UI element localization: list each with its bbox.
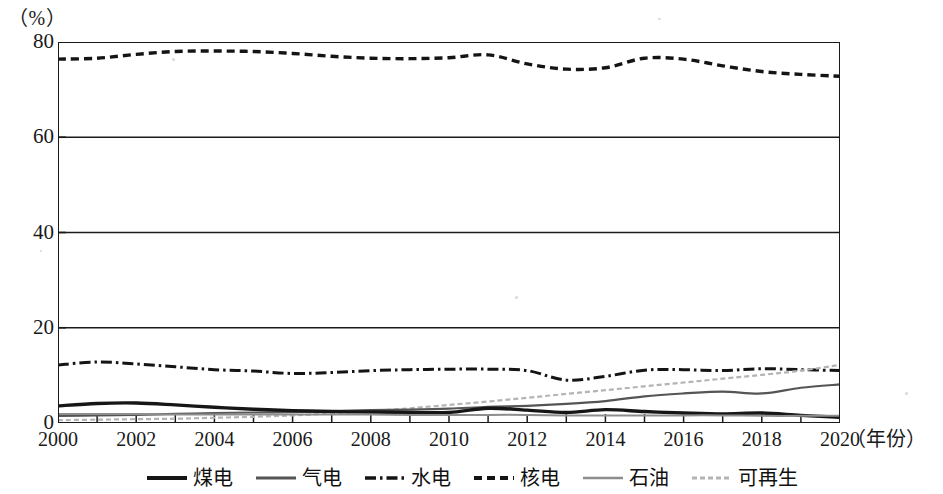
x-axis-tick-2018: 2018	[742, 427, 782, 451]
plot-area	[58, 42, 840, 423]
y-axis-tick-40: 40	[2, 222, 54, 243]
legend-label: 核电	[520, 467, 560, 489]
x-axis-tick-labels: 2000200220042006200820102012201420162018…	[58, 427, 840, 455]
x-axis-tick-2000: 2000	[38, 427, 78, 451]
legend-swatch-石油-icon	[582, 471, 624, 485]
y-axis-tick-20: 20	[2, 317, 54, 338]
legend-swatch-可再生-icon	[691, 471, 733, 485]
legend-item-煤电[interactable]: 煤电	[146, 467, 233, 489]
y-axis-tick-labels: 020406080	[0, 42, 54, 423]
x-axis-tick-2012: 2012	[507, 427, 547, 451]
legend-swatch-水电-icon	[364, 471, 406, 485]
series-line-核电	[58, 51, 840, 76]
x-axis-tick-2014: 2014	[585, 427, 625, 451]
chart-figure: （%） 020406080 20002002200420062008201020…	[0, 0, 943, 494]
x-axis-tick-2010: 2010	[429, 427, 469, 451]
x-axis-tick-2004: 2004	[194, 427, 234, 451]
legend-item-核电[interactable]: 核电	[473, 467, 560, 489]
legend-swatch-核电-icon	[473, 471, 515, 485]
y-axis-tick-60: 60	[2, 126, 54, 147]
legend-label: 石油	[629, 467, 669, 489]
legend-item-石油[interactable]: 石油	[582, 467, 669, 489]
legend-swatch-气电-icon	[255, 471, 297, 485]
y-axis-tick-80: 80	[2, 31, 54, 52]
legend-item-水电[interactable]: 水电	[364, 467, 451, 489]
x-axis-tick-2008: 2008	[351, 427, 391, 451]
legend-swatch-煤电-icon	[146, 471, 188, 485]
x-axis-caption: （年份）	[846, 427, 926, 451]
chart-lines	[58, 42, 840, 423]
y-axis-unit-label: （%）	[8, 2, 66, 31]
legend-label: 水电	[411, 467, 451, 489]
x-axis-tick-2002: 2002	[116, 427, 156, 451]
x-axis-tick-2006: 2006	[273, 427, 313, 451]
legend-label: 煤电	[193, 467, 233, 489]
x-axis-tick-2016: 2016	[664, 427, 704, 451]
legend-item-可再生[interactable]: 可再生	[691, 467, 798, 489]
series-line-水电	[58, 362, 840, 380]
legend-item-气电[interactable]: 气电	[255, 467, 342, 489]
legend-label: 可再生	[738, 467, 798, 489]
chart-legend: 煤电气电水电核电石油可再生	[0, 462, 943, 494]
legend-label: 气电	[302, 467, 342, 489]
